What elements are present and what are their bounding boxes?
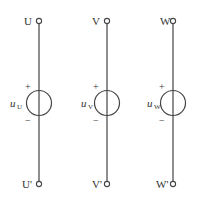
label-u-top: U xyxy=(24,15,32,27)
phase-v: V V' + − u V xyxy=(81,15,120,190)
terminal-v-bottom xyxy=(104,181,109,186)
phase-w: W W' + − u W xyxy=(147,15,186,190)
minus-v: − xyxy=(93,115,99,126)
source-label-w: u xyxy=(147,97,153,109)
source-label-u: u xyxy=(10,97,16,109)
terminal-w-top xyxy=(170,18,175,23)
circuit-diagram: U U' + − u U V V' + − u V W W' + − u W xyxy=(0,0,197,204)
label-v-bottom: V' xyxy=(92,178,102,190)
source-sub-w: W xyxy=(154,103,161,111)
source-sub-v: V xyxy=(88,103,93,111)
phase-u: U U' + − u U xyxy=(10,15,52,190)
plus-w: + xyxy=(159,81,165,92)
source-sub-u: U xyxy=(17,103,22,111)
minus-u: − xyxy=(25,115,31,126)
terminal-u-top xyxy=(36,18,41,23)
label-w-bottom: W' xyxy=(156,178,168,190)
minus-w: − xyxy=(159,115,165,126)
source-label-v: u xyxy=(81,97,87,109)
label-u-bottom: U' xyxy=(22,178,32,190)
terminal-w-bottom xyxy=(170,181,175,186)
plus-u: + xyxy=(25,81,31,92)
terminal-v-top xyxy=(104,18,109,23)
label-v-top: V xyxy=(92,15,100,27)
plus-v: + xyxy=(93,81,99,92)
terminal-u-bottom xyxy=(36,181,41,186)
label-w-top: W xyxy=(160,15,171,27)
